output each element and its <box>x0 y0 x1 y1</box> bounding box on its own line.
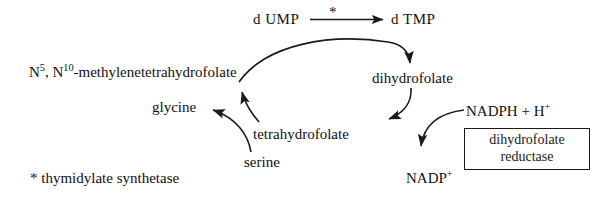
node-glycine: glycine <box>152 99 196 116</box>
enzyme-name-line1: dihydrofolate <box>465 132 589 149</box>
arrow-tetrahydrofolate-to-methylenetetrahydrofolate <box>242 92 259 122</box>
reaction-star-marker: * <box>329 4 337 21</box>
node-dump: d UMP <box>253 11 299 28</box>
node-methylenetetrahydrofolate: N5, N10-methylenetetrahydrofolate <box>29 64 237 81</box>
node-nadph: NADPH + H+ <box>466 103 550 120</box>
footnote: * thymidylate synthetase <box>30 170 179 187</box>
node-tetrahydrofolate: tetrahydrofolate <box>253 126 349 143</box>
enzyme-name-line2: reductase <box>465 149 589 166</box>
node-serine: serine <box>244 154 280 171</box>
arrow-serine-to-glycine <box>213 110 251 152</box>
arrow-dihydrofolate-to-tetrahydrofolate <box>389 88 411 119</box>
arrow-nadph-to-nadp <box>421 110 464 146</box>
enzyme-label-box: dihydrofolate reductase <box>464 128 590 170</box>
node-dihydrofolate: dihydrofolate <box>372 70 453 87</box>
node-nadp: NADP+ <box>406 170 453 187</box>
node-dtmp: d TMP <box>391 11 435 28</box>
pathway-diagram: d UMP * d TMP N5, N10-methylenetetrahydr… <box>0 0 603 201</box>
